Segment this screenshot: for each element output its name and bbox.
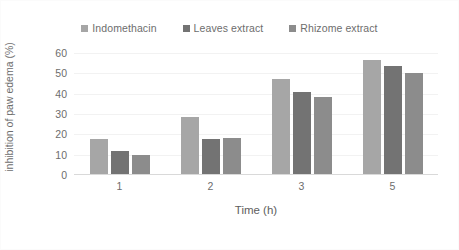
bar[interactable]	[132, 155, 150, 174]
y-tick-label: 60	[55, 48, 67, 59]
bar-chart-figure: IndomethacinLeaves extractRhizome extrac…	[0, 0, 459, 250]
bar[interactable]	[272, 79, 290, 174]
bar[interactable]	[111, 151, 129, 174]
bar[interactable]	[293, 92, 311, 174]
legend-label: Rhizome extract	[300, 22, 377, 34]
legend-label: Indomethacin	[92, 22, 156, 34]
legend-entry[interactable]: Indomethacin	[81, 22, 156, 34]
y-axis-title: inhibition of paw edema (%)	[3, 37, 17, 177]
legend-entry[interactable]: Rhizome extract	[289, 22, 377, 34]
x-tick-label: 2	[208, 181, 214, 192]
x-tick-label: 1	[117, 181, 123, 192]
legend-swatch-icon	[289, 25, 296, 32]
legend-entry[interactable]: Leaves extract	[183, 22, 264, 34]
y-tick-label: 10	[55, 149, 67, 160]
y-axis-tick-labels: 0102030405060	[43, 53, 67, 175]
y-tick-label: 40	[55, 88, 67, 99]
bar[interactable]	[223, 138, 241, 174]
bar[interactable]	[384, 66, 402, 174]
plot-area	[74, 53, 438, 175]
chart-legend: IndomethacinLeaves extractRhizome extrac…	[1, 22, 458, 34]
bars-layer	[74, 53, 438, 175]
bar[interactable]	[90, 139, 108, 174]
bar-group	[74, 53, 165, 174]
bar[interactable]	[363, 60, 381, 174]
x-axis-tick-labels: 1235	[74, 181, 438, 195]
bar-group	[347, 53, 438, 174]
legend-swatch-icon	[81, 25, 88, 32]
bar[interactable]	[181, 117, 199, 174]
bar[interactable]	[202, 139, 220, 174]
x-tick-label: 5	[390, 181, 396, 192]
legend-label: Leaves extract	[194, 22, 264, 34]
bar-group	[256, 53, 347, 174]
legend-swatch-icon	[183, 25, 190, 32]
y-tick-label: 30	[55, 109, 67, 120]
x-axis-title: Time (h)	[74, 204, 438, 216]
y-tick-label: 50	[55, 68, 67, 79]
x-tick-label: 3	[299, 181, 305, 192]
bar-group	[165, 53, 256, 174]
y-tick-label: 20	[55, 129, 67, 140]
bar[interactable]	[405, 73, 423, 174]
bar[interactable]	[314, 97, 332, 174]
y-tick-label: 0	[61, 170, 67, 181]
